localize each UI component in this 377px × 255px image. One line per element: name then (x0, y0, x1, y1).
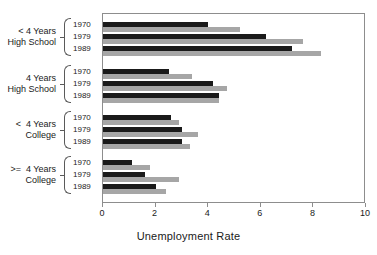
bar-light (103, 177, 179, 182)
plot-area (102, 13, 365, 203)
x-tick-label: 6 (257, 208, 262, 218)
year-label-1970: 1970 (73, 113, 113, 122)
bar-row (103, 46, 364, 57)
bar-row (103, 81, 364, 92)
x-tick-label: 2 (152, 208, 157, 218)
group-brace-nub (60, 175, 64, 176)
x-tick-label: 0 (99, 208, 104, 218)
year-label-1970: 1970 (73, 158, 113, 167)
x-tick-label: 10 (360, 208, 370, 218)
x-tick (102, 203, 103, 207)
group-brace (64, 111, 71, 149)
bar-light (103, 132, 198, 137)
bar-row (103, 127, 364, 138)
bar-row (103, 93, 364, 104)
x-axis: 0246810 (102, 203, 365, 204)
category-label: 4 Years High School (0, 73, 56, 95)
bar-light (103, 120, 179, 125)
bar-row (103, 160, 364, 171)
bar-light (103, 39, 303, 44)
unemployment-rate-bar-chart: 197019791989< 4 Years High School1970197… (0, 0, 377, 255)
category-label: >= 4 Years College (0, 164, 56, 186)
group-brace (64, 65, 71, 103)
year-label-1970: 1970 (73, 20, 113, 29)
x-tick (312, 203, 313, 207)
year-label-1979: 1979 (73, 79, 113, 88)
bar-light (103, 74, 192, 79)
category-label: < 4 Years High School (0, 26, 56, 48)
group-brace-nub (60, 84, 64, 85)
year-label-1989: 1989 (73, 182, 113, 191)
x-tick-label: 8 (310, 208, 315, 218)
bar-row (103, 69, 364, 80)
bar-light (103, 98, 219, 103)
bar-row (103, 115, 364, 126)
bar-row (103, 172, 364, 183)
bar-row (103, 34, 364, 45)
year-label-1989: 1989 (73, 91, 113, 100)
x-axis-title: Unemployment Rate (0, 230, 377, 242)
year-label-1989: 1989 (73, 44, 113, 53)
bar-light (103, 144, 190, 149)
x-tick (260, 203, 261, 207)
x-tick (207, 203, 208, 207)
year-label-1979: 1979 (73, 125, 113, 134)
year-label-1979: 1979 (73, 32, 113, 41)
bar-row (103, 22, 364, 33)
x-tick (365, 203, 366, 207)
x-tick (155, 203, 156, 207)
group-brace (64, 156, 71, 194)
bar-light (103, 86, 227, 91)
year-label-1979: 1979 (73, 170, 113, 179)
category-label: < 4 Years College (0, 119, 56, 141)
x-tick-label: 4 (205, 208, 210, 218)
bar-row (103, 139, 364, 150)
year-label-1970: 1970 (73, 67, 113, 76)
group-brace-nub (60, 130, 64, 131)
group-brace-nub (60, 37, 64, 38)
group-brace (64, 18, 71, 56)
bar-light (103, 27, 240, 32)
year-label-1989: 1989 (73, 137, 113, 146)
bar-row (103, 184, 364, 195)
bar-light (103, 51, 321, 56)
